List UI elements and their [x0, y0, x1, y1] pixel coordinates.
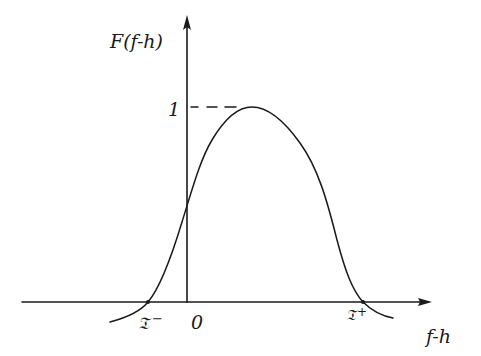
origin-label: 0	[191, 311, 203, 333]
function-curve	[110, 107, 393, 322]
left-root-point	[146, 300, 150, 304]
peak-level-label: 1	[168, 98, 180, 120]
x-axis	[22, 298, 432, 306]
right-root-point	[361, 300, 365, 304]
x-axis-arrow-icon	[418, 298, 432, 306]
right-root-label: 𝔗+	[346, 305, 367, 324]
left-root-label: 𝔗−	[138, 311, 163, 333]
x-axis-label: f-h	[424, 325, 451, 347]
diagram-canvas: F(f-h) 1 0 𝔗− 𝔗+ f-h	[0, 0, 481, 356]
y-axis-label: F(f-h)	[109, 30, 163, 52]
y-axis	[183, 15, 191, 302]
